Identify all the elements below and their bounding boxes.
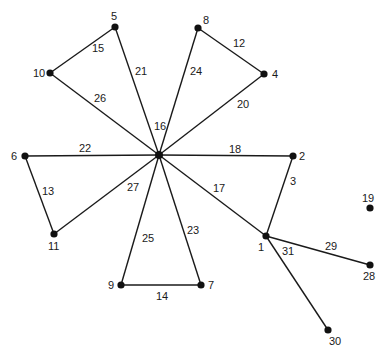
edge-label: 23 [187, 224, 199, 236]
node-label: 4 [272, 68, 278, 80]
node-4 [260, 70, 267, 77]
edge-label: 31 [282, 245, 294, 257]
edge-16-1 [159, 155, 266, 236]
node-28 [366, 261, 373, 268]
edge-label: 12 [233, 37, 245, 49]
edge-label: 24 [190, 65, 202, 77]
node-label: 11 [48, 240, 59, 252]
edge-label: 27 [127, 181, 139, 193]
node-19 [366, 204, 373, 211]
node-6 [21, 152, 28, 159]
node-label: 1 [258, 241, 264, 253]
node-label: 2 [299, 150, 305, 162]
edge-label: 25 [142, 232, 154, 244]
edge-label: 15 [92, 42, 104, 54]
node-9 [117, 281, 124, 288]
edge-label: 22 [79, 142, 91, 154]
node-label: 10 [33, 67, 45, 79]
edge-label: 14 [156, 290, 168, 302]
edge-9-16 [121, 155, 159, 285]
node-label: 8 [203, 14, 209, 26]
edge-2-1 [266, 156, 293, 236]
node-10 [46, 69, 53, 76]
edge-8-16 [159, 28, 198, 155]
edge-11-16 [54, 155, 159, 234]
node-8 [194, 24, 201, 31]
node-label: 9 [108, 279, 114, 291]
edge-label: 29 [325, 240, 337, 252]
hub-label: 16 [154, 120, 166, 132]
edge-10-16 [50, 73, 159, 155]
node-label: 19 [362, 192, 374, 204]
labels-layer: 16 1521262412202218132725231417329315108… [11, 10, 375, 347]
edge-label: 3 [290, 175, 296, 187]
node-7 [197, 281, 204, 288]
network-graph: 16 1521262412202218132725231417329315108… [0, 0, 387, 357]
edge-16-2 [159, 155, 293, 156]
edge-label: 21 [135, 65, 147, 77]
edge-5-16 [115, 27, 159, 155]
edge-8-4 [198, 28, 264, 74]
node-16 [155, 151, 163, 159]
node-label: 30 [329, 335, 341, 347]
node-label: 28 [363, 270, 375, 282]
node-2 [289, 152, 296, 159]
node-label: 5 [111, 10, 117, 22]
edge-label: 26 [94, 92, 106, 104]
edge-6-16 [25, 155, 159, 156]
edge-7-16 [159, 155, 201, 285]
edge-label: 13 [42, 185, 54, 197]
node-5 [111, 23, 118, 30]
node-label: 6 [11, 150, 17, 162]
edge-5-10 [50, 27, 115, 73]
node-11 [50, 230, 57, 237]
edge-label: 20 [237, 98, 249, 110]
node-1 [262, 232, 269, 239]
edge-label: 17 [213, 182, 225, 194]
node-label: 7 [208, 279, 214, 291]
edge-4-16 [159, 74, 264, 155]
node-30 [324, 326, 331, 333]
edge-label: 18 [229, 143, 241, 155]
